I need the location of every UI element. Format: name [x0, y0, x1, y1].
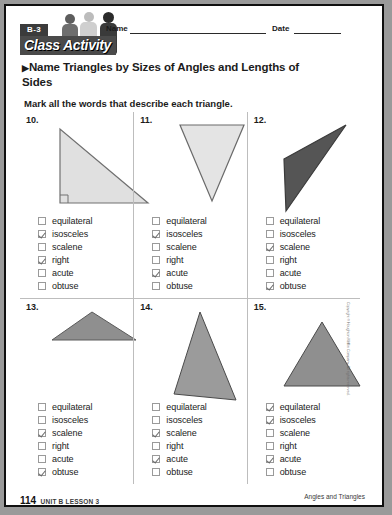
checkbox-icon[interactable] — [152, 442, 160, 450]
choice-isosceles[interactable]: isosceles — [266, 227, 320, 240]
choice-list: equilateralisoscelesscalenerightacuteobt… — [152, 400, 206, 478]
choice-equilateral[interactable]: equilateral — [152, 400, 206, 413]
choice-equilateral[interactable]: equilateral — [152, 214, 206, 227]
choice-label: equilateral — [52, 216, 92, 226]
checkbox-checked-icon[interactable] — [152, 230, 160, 238]
choice-scalene[interactable]: scalene — [266, 240, 320, 253]
checkbox-icon[interactable] — [152, 282, 160, 290]
choice-label: scalene — [52, 242, 82, 252]
triangle-figure-15 — [254, 302, 360, 406]
choice-right[interactable]: right — [266, 439, 320, 452]
checkbox-icon[interactable] — [266, 429, 274, 437]
choice-label: obtuse — [280, 281, 306, 291]
choice-equilateral[interactable]: equilateral — [38, 214, 92, 227]
checkbox-icon[interactable] — [38, 269, 46, 277]
choice-equilateral[interactable]: equilateral — [266, 214, 320, 227]
choice-obtuse[interactable]: obtuse — [266, 465, 320, 478]
choice-right[interactable]: right — [152, 439, 206, 452]
checkbox-checked-icon[interactable] — [38, 230, 46, 238]
checkbox-checked-icon[interactable] — [38, 468, 46, 476]
checkbox-checked-icon[interactable] — [152, 269, 160, 277]
checkbox-icon[interactable] — [152, 468, 160, 476]
choice-acute[interactable]: acute — [266, 452, 320, 465]
choice-label: isosceles — [280, 229, 316, 239]
checkbox-icon[interactable] — [38, 282, 46, 290]
class-activity-title: Class Activity — [24, 37, 111, 53]
checkbox-icon[interactable] — [266, 269, 274, 277]
choice-acute[interactable]: acute — [38, 452, 92, 465]
checkbox-icon[interactable] — [38, 455, 46, 463]
choice-label: scalene — [166, 428, 196, 438]
choice-acute[interactable]: acute — [38, 266, 92, 279]
choice-equilateral[interactable]: equilateral — [266, 400, 320, 413]
checkbox-checked-icon[interactable] — [38, 256, 46, 264]
choice-scalene[interactable]: scalene — [152, 240, 206, 253]
choice-acute[interactable]: acute — [152, 266, 206, 279]
choice-label: right — [280, 441, 297, 451]
section-title-text: Name Triangles by Sizes of Angles and Le… — [22, 61, 299, 88]
checkbox-icon[interactable] — [38, 217, 46, 225]
choice-right[interactable]: right — [38, 253, 92, 266]
lesson-title: Angles and Triangles — [304, 493, 365, 500]
checkbox-icon[interactable] — [266, 230, 274, 238]
choice-isosceles[interactable]: isosceles — [152, 413, 206, 426]
checkbox-icon[interactable] — [152, 416, 160, 424]
checkbox-checked-icon[interactable] — [152, 429, 160, 437]
choice-scalene[interactable]: scalene — [38, 240, 92, 253]
name-input-line[interactable] — [130, 33, 266, 34]
page-footer: 114 UNIT B LESSON 3 Angles and Triangles — [20, 490, 365, 507]
choice-label: obtuse — [52, 467, 78, 477]
choice-label: scalene — [52, 428, 82, 438]
choice-scalene[interactable]: scalene — [38, 426, 92, 439]
checkbox-icon[interactable] — [266, 217, 274, 225]
choice-label: acute — [280, 454, 302, 464]
checkbox-checked-icon[interactable] — [152, 455, 160, 463]
choice-label: isosceles — [166, 415, 202, 425]
choice-acute[interactable]: acute — [266, 266, 320, 279]
choice-isosceles[interactable]: isosceles — [38, 227, 92, 240]
problems-grid: 10. equilateralisoscelesscalenerightacut… — [20, 112, 360, 484]
checkbox-icon[interactable] — [152, 243, 160, 251]
choice-scalene[interactable]: scalene — [152, 426, 206, 439]
choice-obtuse[interactable]: obtuse — [152, 279, 206, 292]
checkbox-icon[interactable] — [152, 217, 160, 225]
choice-right[interactable]: right — [152, 253, 206, 266]
checkbox-icon[interactable] — [38, 403, 46, 411]
choice-isosceles[interactable]: isosceles — [266, 413, 320, 426]
choice-right[interactable]: right — [38, 439, 92, 452]
choice-obtuse[interactable]: obtuse — [38, 279, 92, 292]
choice-list: equilateralisoscelesscalenerightacuteobt… — [38, 214, 92, 292]
checkbox-icon[interactable] — [38, 243, 46, 251]
choice-equilateral[interactable]: equilateral — [38, 400, 92, 413]
choice-label: scalene — [280, 428, 310, 438]
checkbox-icon[interactable] — [266, 468, 274, 476]
checkbox-checked-icon[interactable] — [266, 455, 274, 463]
checkbox-icon[interactable] — [38, 442, 46, 450]
checkbox-checked-icon[interactable] — [266, 416, 274, 424]
choice-label: equilateral — [52, 402, 92, 412]
choice-acute[interactable]: acute — [152, 452, 206, 465]
section-title: ▶Name Triangles by Sizes of Angles and L… — [22, 60, 322, 89]
choice-label: obtuse — [280, 467, 306, 477]
checkbox-checked-icon[interactable] — [266, 403, 274, 411]
choice-obtuse[interactable]: obtuse — [38, 465, 92, 478]
checkbox-icon[interactable] — [152, 403, 160, 411]
choice-scalene[interactable]: scalene — [266, 426, 320, 439]
checkbox-icon[interactable] — [152, 256, 160, 264]
choice-obtuse[interactable]: obtuse — [266, 279, 320, 292]
checkbox-icon[interactable] — [266, 442, 274, 450]
choice-isosceles[interactable]: isosceles — [38, 413, 92, 426]
choice-label: equilateral — [166, 216, 206, 226]
checkbox-icon[interactable] — [266, 256, 274, 264]
choice-label: right — [166, 441, 183, 451]
choice-isosceles[interactable]: isosceles — [152, 227, 206, 240]
choice-right[interactable]: right — [266, 253, 320, 266]
choice-label: acute — [166, 268, 188, 278]
checkbox-icon[interactable] — [38, 416, 46, 424]
class-activity-banner: Class Activity — [20, 36, 116, 55]
choice-obtuse[interactable]: obtuse — [152, 465, 206, 478]
date-input-line[interactable] — [294, 33, 341, 34]
checkbox-checked-icon[interactable] — [266, 282, 274, 290]
checkbox-checked-icon[interactable] — [266, 243, 274, 251]
checkbox-checked-icon[interactable] — [38, 429, 46, 437]
